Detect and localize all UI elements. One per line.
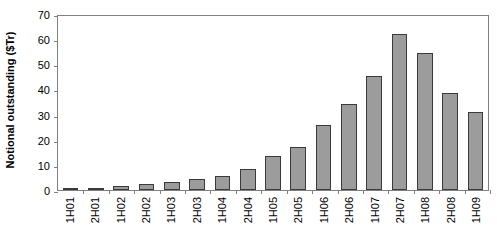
- y-tick-label: 20: [38, 135, 50, 147]
- x-label-slot: 2H04: [235, 191, 260, 249]
- y-tick-mark: [54, 91, 58, 92]
- x-tick-label: 1H07: [369, 197, 381, 223]
- bar[interactable]: [189, 179, 205, 190]
- x-tick-mark: [490, 190, 491, 194]
- bar[interactable]: [164, 182, 180, 190]
- x-tick-label: 2H03: [191, 197, 203, 223]
- plot-area: [57, 15, 489, 191]
- x-axis-tick-labels: 1H012H011H022H021H032H031H042H041H052H05…: [57, 191, 489, 249]
- bar[interactable]: [215, 176, 231, 190]
- y-tick-label: 40: [38, 84, 50, 96]
- bar-slot: [109, 16, 134, 190]
- x-label-slot: 1H07: [362, 191, 387, 249]
- x-tick-label: 1H04: [216, 197, 228, 223]
- x-tick-label: 1H09: [470, 197, 482, 223]
- x-tick-label: 2H05: [292, 197, 304, 223]
- x-tick-label: 2H01: [89, 197, 101, 223]
- bar-slot: [412, 16, 437, 190]
- y-tick-mark: [54, 16, 58, 17]
- x-tick-label: 2H02: [140, 197, 152, 223]
- bar-series: [58, 16, 488, 190]
- bar-slot: [134, 16, 159, 190]
- x-tick-label: 2H07: [394, 197, 406, 223]
- y-tick-mark: [54, 142, 58, 143]
- bar[interactable]: [316, 125, 332, 190]
- y-tick-label: 30: [38, 110, 50, 122]
- x-label-slot: 1H05: [260, 191, 285, 249]
- bar-slot: [437, 16, 462, 190]
- bar[interactable]: [88, 188, 104, 190]
- y-tick-mark: [54, 41, 58, 42]
- y-tick-label: 50: [38, 59, 50, 71]
- bar[interactable]: [468, 112, 484, 190]
- bar-slot: [210, 16, 235, 190]
- x-label-slot: 2H02: [133, 191, 158, 249]
- x-label-slot: 1H01: [57, 191, 82, 249]
- bar-slot: [286, 16, 311, 190]
- y-tick-label: 60: [38, 34, 50, 46]
- y-tick-label: 0: [44, 185, 50, 197]
- bar-slot: [362, 16, 387, 190]
- y-tick-label: 70: [38, 9, 50, 21]
- x-tick-label: 2H08: [445, 197, 457, 223]
- bar-slot: [463, 16, 488, 190]
- bar-slot: [58, 16, 83, 190]
- x-label-slot: 1H03: [159, 191, 184, 249]
- bar[interactable]: [240, 169, 256, 190]
- x-label-slot: 2H06: [336, 191, 361, 249]
- bar[interactable]: [113, 186, 129, 190]
- x-tick-label: 1H08: [419, 197, 431, 223]
- bar[interactable]: [341, 104, 357, 190]
- bar-slot: [260, 16, 285, 190]
- x-tick-label: 1H01: [64, 197, 76, 223]
- bar-chart: Notional outstanding ($Tr) 0102030405060…: [0, 0, 497, 249]
- bar-slot: [311, 16, 336, 190]
- y-tick-mark: [54, 66, 58, 67]
- x-label-slot: 1H08: [413, 191, 438, 249]
- bar-slot: [184, 16, 209, 190]
- y-axis-tick-labels: 010203040506070: [20, 0, 54, 200]
- bar[interactable]: [366, 76, 382, 190]
- x-label-slot: 2H01: [82, 191, 107, 249]
- bar-slot: [235, 16, 260, 190]
- x-label-slot: 2H07: [387, 191, 412, 249]
- bar-slot: [159, 16, 184, 190]
- y-tick-mark: [54, 167, 58, 168]
- bar[interactable]: [265, 156, 281, 190]
- x-label-slot: 2H03: [184, 191, 209, 249]
- x-label-slot: 1H04: [209, 191, 234, 249]
- x-label-slot: 1H09: [464, 191, 489, 249]
- bar-slot: [83, 16, 108, 190]
- bar[interactable]: [392, 34, 408, 190]
- x-label-slot: 2H08: [438, 191, 463, 249]
- x-tick-label: 1H06: [318, 197, 330, 223]
- x-tick-label: 1H02: [115, 197, 127, 223]
- x-tick-label: 2H04: [242, 197, 254, 223]
- x-label-slot: 1H02: [108, 191, 133, 249]
- bar[interactable]: [442, 93, 458, 190]
- y-axis-title-label: Notional outstanding ($Tr): [4, 32, 16, 169]
- bar[interactable]: [63, 188, 79, 190]
- bar-slot: [387, 16, 412, 190]
- x-label-slot: 2H05: [286, 191, 311, 249]
- bar[interactable]: [417, 53, 433, 190]
- y-axis-title: Notional outstanding ($Tr): [0, 0, 20, 200]
- x-tick-label: 1H03: [165, 197, 177, 223]
- x-tick-label: 1H05: [267, 197, 279, 223]
- y-tick-mark: [54, 117, 58, 118]
- bar[interactable]: [139, 184, 155, 190]
- bar-slot: [336, 16, 361, 190]
- x-tick-label: 2H06: [343, 197, 355, 223]
- x-label-slot: 1H06: [311, 191, 336, 249]
- bar[interactable]: [290, 147, 306, 190]
- y-tick-label: 10: [38, 160, 50, 172]
